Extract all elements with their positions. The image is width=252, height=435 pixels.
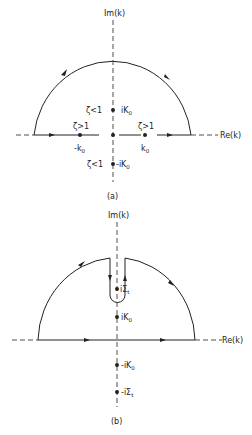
label-neg-k0: -k0 (74, 144, 86, 154)
caption-b: (b) (111, 417, 122, 426)
label-iK0-a: iK0 (121, 106, 132, 116)
label-neg-iK0-b: -iK0 (121, 361, 135, 371)
label-cond-neg-k0: ζ>1 (73, 122, 89, 131)
arrow-icon (164, 74, 170, 80)
label-cond-k0: ζ>1 (138, 122, 154, 131)
contour-arc-a (34, 61, 191, 135)
point-neg-i-sigma-t (115, 390, 119, 394)
contour-diagram: Im(k) Re(k) ζ<1 iK0 ζ>1 -k0 ζ>1 k0 ζ<1 -… (0, 0, 252, 435)
arrow-icon (49, 133, 55, 137)
im-axis-label-b: Im(k) (108, 211, 129, 220)
label-iK0-b: iK0 (121, 313, 132, 323)
arrow-icon (84, 338, 90, 342)
arrow-icon (167, 133, 173, 137)
label-cond-iK0: ζ<1 (86, 106, 102, 115)
label-i-sigma-t: iΣt (120, 285, 130, 295)
im-axis-label-a: Im(k) (104, 9, 125, 18)
point-i-sigma-t (115, 287, 119, 291)
arrow-icon (123, 275, 127, 281)
label-neg-iK0-a: -iK0 (116, 160, 130, 170)
point-neg-k0-a (78, 133, 82, 137)
arrow-icon (160, 338, 166, 342)
point-origin-a (111, 133, 115, 137)
caption-a: (a) (107, 192, 118, 201)
point-k0-a (143, 133, 147, 137)
re-axis-label-b: Re(k) (222, 336, 243, 345)
figure-a: Im(k) Re(k) ζ<1 iK0 ζ>1 -k0 ζ>1 k0 ζ<1 -… (16, 9, 241, 201)
point-iK0-b (115, 315, 119, 319)
label-cond-neg-iK0: ζ<1 (87, 160, 103, 169)
label-neg-i-sigma-t: -iΣt (121, 388, 134, 398)
figure-b: Im(k) Re(k) iΣt iK0 -iK0 -iΣt (b) (12, 211, 243, 426)
point-iK0-a (111, 108, 115, 112)
label-k0: k0 (141, 144, 150, 154)
arrow-icon (61, 69, 67, 76)
re-axis-label-a: Re(k) (220, 131, 241, 140)
arrow-icon (78, 261, 85, 267)
arrow-icon (108, 275, 112, 281)
point-neg-iK0-a (111, 162, 115, 166)
contour-arc-right-b (125, 258, 195, 340)
point-neg-iK0-b (115, 363, 119, 367)
contour-keyhole-b (110, 258, 125, 303)
contour-arc-left-b (38, 258, 110, 340)
